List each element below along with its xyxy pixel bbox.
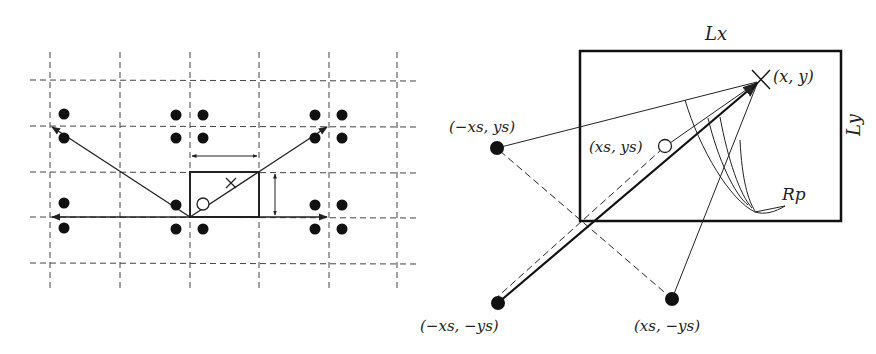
left-panel-image-lattice bbox=[30, 52, 420, 288]
label-receiver: (x, y) bbox=[773, 67, 814, 86]
figure-canvas: Lx Ly (x, y) (xs, ys) (−xs, ys) (−xs, −y… bbox=[0, 0, 876, 354]
direct-path-dashed bbox=[494, 150, 661, 300]
source-circle bbox=[197, 198, 209, 210]
receiver-cross-icon bbox=[226, 178, 236, 188]
label-rp: Rp bbox=[781, 184, 806, 204]
image-rays bbox=[497, 82, 757, 299]
primary-ray bbox=[499, 83, 757, 302]
image-dot-neg-xs-ys bbox=[490, 141, 504, 155]
dashed-grid bbox=[30, 52, 420, 288]
image-dot-neg-xs-neg-ys bbox=[491, 296, 505, 310]
label-image-1: (−xs, ys) bbox=[449, 118, 515, 136]
right-panel-room-geometry: Lx Ly (x, y) (xs, ys) (−xs, ys) (−xs, −y… bbox=[420, 23, 864, 335]
image-dot-xs-neg-ys bbox=[665, 292, 679, 306]
region-rp-curves bbox=[685, 100, 785, 213]
label-source: (xs, ys) bbox=[589, 138, 643, 156]
label-lx: Lx bbox=[704, 23, 727, 44]
receiver-cross-icon bbox=[752, 70, 770, 89]
mirror-line-dashed bbox=[500, 151, 670, 297]
label-image-2: (−xs, −ys) bbox=[420, 317, 499, 335]
source-circle bbox=[659, 140, 672, 153]
label-ly: Ly bbox=[843, 113, 864, 137]
label-image-3: (xs, −ys) bbox=[634, 317, 700, 335]
